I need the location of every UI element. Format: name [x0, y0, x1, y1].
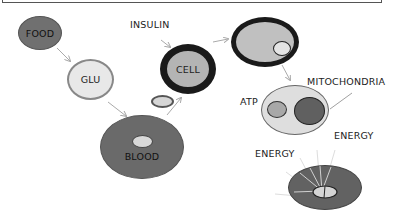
- arrow-glu-to-blood: [108, 102, 126, 116]
- cell-label: CELL: [176, 64, 200, 75]
- mitochondria-cell-node: [261, 85, 329, 135]
- glucose-molecule: [151, 95, 174, 108]
- atp-label: ATP: [240, 96, 258, 107]
- glu-node: GLU: [67, 59, 114, 100]
- arrow-food-to-glu: [57, 48, 70, 61]
- arrow-cell-to-cell2: [213, 39, 228, 42]
- glu-label: GLU: [81, 74, 101, 85]
- energy-label-left: ENERGY: [255, 148, 295, 159]
- mitochondria-label: MITOCHONDRIA: [307, 76, 385, 87]
- atp-molecule: [267, 101, 287, 118]
- arrow-cell2-to-atp-cell: [282, 65, 290, 80]
- glucose-in-blood: [132, 135, 153, 148]
- insulin-label: INSULIN: [130, 19, 170, 30]
- arrow-insulin-to-cell: [161, 40, 170, 47]
- energy-label-right: ENERGY: [334, 130, 374, 141]
- cell-node: CELL: [160, 44, 216, 94]
- mitochondria-pointer-line: [330, 93, 352, 109]
- blood-label: BLOOD: [125, 151, 160, 162]
- glucose-inside-cell: [273, 41, 291, 56]
- energy-cell-detail: [288, 165, 362, 210]
- mitochondrion: [294, 97, 325, 125]
- food-label: FOOD: [26, 28, 55, 39]
- food-node: FOOD: [18, 16, 62, 50]
- cell-with-glucose-node: [231, 17, 299, 67]
- blood-node: BLOOD: [100, 115, 184, 179]
